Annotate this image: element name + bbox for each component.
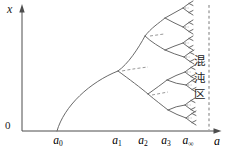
unstable-branch-2a	[150, 34, 164, 36]
bifurcation-diagram: x 0 a0 a1 a2 a3 a∞ a 混沌区	[0, 0, 233, 157]
branch-2b-down	[148, 94, 168, 110]
unstable-branch-1	[122, 67, 148, 71]
x-tick-a0: a0	[53, 134, 63, 148]
unstable-branch-2b	[152, 92, 168, 95]
tick-sub: 0	[59, 139, 63, 148]
y-axis-arrow-icon	[19, 4, 24, 13]
x-axis-label: a	[214, 134, 220, 149]
chaos-region-label: 混沌区	[191, 55, 207, 105]
tick-sub: ∞	[188, 139, 193, 148]
fan-8	[186, 111, 196, 125]
fan-2	[183, 20, 193, 34]
lower-branch	[118, 71, 148, 94]
x-tick-a-inf: a∞	[182, 134, 193, 148]
tick-sub: 1	[118, 139, 122, 148]
x-tick-a3: a3	[161, 134, 171, 148]
branch-3d	[168, 105, 186, 118]
x-tick-a1: a1	[112, 134, 122, 148]
y-axis-label: x	[7, 3, 12, 15]
tick-sub: 3	[167, 139, 171, 148]
origin-label: 0	[5, 120, 11, 131]
branch-3b	[165, 43, 184, 57]
x-tick-a2: a2	[138, 134, 148, 148]
fan-3	[183, 36, 193, 50]
main-branch-curve	[57, 71, 118, 131]
branch-2a-down	[145, 36, 165, 50]
upper-branch	[118, 36, 145, 71]
branch-2b-up	[148, 80, 167, 94]
branch-3a	[165, 8, 183, 27]
tick-sub: 2	[144, 139, 148, 148]
branch-2a-up	[145, 18, 165, 36]
x-axis-arrow-icon	[214, 128, 222, 133]
branch-3c	[167, 72, 186, 85]
fan-1	[183, 1, 193, 15]
